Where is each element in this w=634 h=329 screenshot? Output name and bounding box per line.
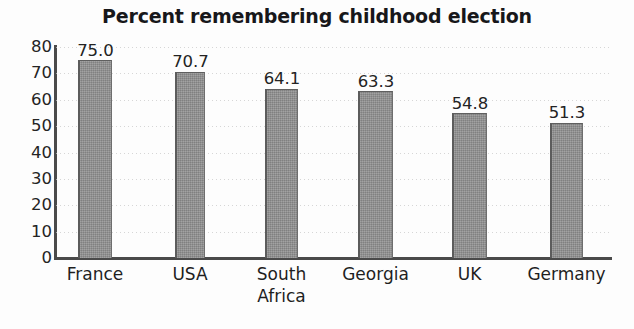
bar-value-label: 75.0: [77, 43, 114, 60]
bar-group: 51.3: [550, 47, 583, 258]
bar-group: 75.0: [78, 47, 112, 258]
bar-value-label: 70.7: [172, 54, 209, 71]
category-label-line: Germany: [507, 264, 627, 286]
gridline: [56, 153, 612, 154]
bar: 70.7: [175, 72, 205, 258]
y-axis-tick-label: 60: [6, 92, 52, 109]
bar-group: 70.7: [175, 47, 205, 258]
x-axis-category-label: Germany: [507, 264, 627, 286]
gridline: [56, 47, 612, 48]
y-axis-tick-label: 30: [6, 171, 52, 188]
y-axis-tick-label: 80: [6, 39, 52, 56]
bar-value-label: 54.8: [452, 96, 489, 113]
bar: 54.8: [452, 113, 487, 258]
chart-title: Percent remembering childhood election: [0, 5, 634, 27]
y-axis-tick-label: 50: [6, 118, 52, 135]
gridline: [56, 179, 612, 180]
y-axis-tick-label: 40: [6, 144, 52, 161]
bar-group: 64.1: [265, 47, 298, 258]
gridline: [56, 73, 612, 74]
y-axis-tick-label: 70: [6, 65, 52, 82]
y-axis-tick-label: 20: [6, 197, 52, 214]
category-label-line: Africa: [222, 286, 342, 308]
bar-chart: Percent remembering childhood election 8…: [0, 0, 634, 329]
x-axis-category-labels: FranceUSASouthAfricaGeorgiaUKGermany: [56, 264, 612, 326]
gridline: [56, 126, 612, 127]
bar: 63.3: [358, 91, 393, 258]
gridline: [56, 205, 612, 206]
plot-area: 75.070.764.163.354.851.3: [56, 47, 612, 258]
bar-group: 63.3: [358, 47, 393, 258]
bar: 64.1: [265, 89, 298, 258]
bar-value-label: 63.3: [358, 74, 395, 91]
y-axis-tick-label: 10: [6, 223, 52, 240]
gridline: [56, 100, 612, 101]
bar: 51.3: [550, 123, 583, 258]
bar-value-label: 51.3: [549, 105, 586, 122]
bar: 75.0: [78, 60, 112, 258]
bar-group: 54.8: [452, 47, 487, 258]
gridline: [56, 232, 612, 233]
bar-value-label: 64.1: [264, 71, 301, 88]
